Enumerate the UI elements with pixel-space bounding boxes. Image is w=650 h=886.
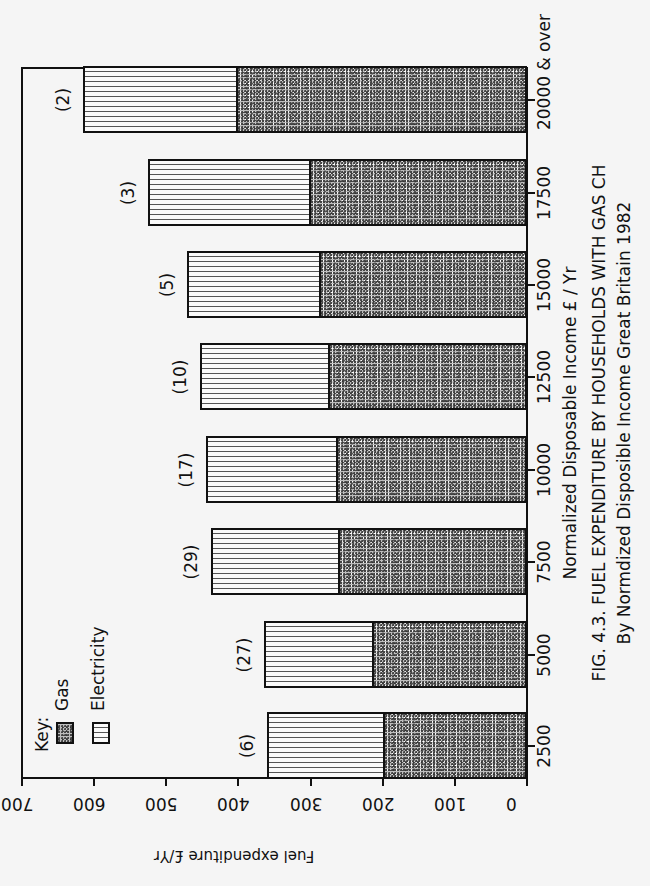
x-axis-title: Normalized Disposable Income £ / Yr xyxy=(560,67,580,779)
bar-segment-gas xyxy=(372,622,527,689)
y-tick-label: 100 xyxy=(434,794,474,814)
bar-segment-electricity xyxy=(200,344,328,411)
bar-segment-electricity xyxy=(211,529,338,596)
sample-count-label: (5) xyxy=(157,255,177,315)
bar-segment-gas xyxy=(236,67,527,134)
sample-count-label: (29) xyxy=(181,532,201,592)
figure-caption-title: FIG. 4.3. FUEL EXPENDITURE BY HOUSEHOLDS… xyxy=(589,67,609,779)
y-tick-label: 400 xyxy=(217,794,257,814)
bar-segment-gas xyxy=(328,344,527,411)
legend-label-gas: Gas xyxy=(52,679,72,711)
bar-segment-gas xyxy=(338,529,527,596)
y-tick-mark xyxy=(165,778,167,786)
legend: Key: Gas Electricity xyxy=(32,586,122,766)
y-tick-label: 600 xyxy=(73,794,113,814)
y-tick-mark xyxy=(21,778,23,786)
sample-count-label: (2) xyxy=(53,70,73,130)
gas-swatch-icon xyxy=(56,722,74,744)
x-tick-label: 20000 & over xyxy=(534,12,554,132)
bar-segment-electricity xyxy=(148,160,309,227)
y-tick-label: 200 xyxy=(362,794,402,814)
chart-canvas: 0100200300400500600700 (6)(27)(29)(17)(1… xyxy=(0,0,650,886)
y-axis-title: Fuel expenditure £/Yr xyxy=(134,847,334,865)
stacked-bar xyxy=(148,160,527,227)
y-tick-mark xyxy=(93,778,95,786)
bar-segment-electricity xyxy=(187,252,318,319)
x-tick-label: 17500 xyxy=(534,133,554,253)
bar-segment-gas xyxy=(309,160,527,227)
stacked-bar xyxy=(200,344,527,411)
legend-label-electricity: Electricity xyxy=(88,627,108,711)
bar-segment-gas xyxy=(319,252,527,319)
bar-segment-electricity xyxy=(83,67,235,134)
stacked-bar xyxy=(267,713,527,780)
stacked-bar xyxy=(211,529,527,596)
electricity-swatch-icon xyxy=(92,722,110,744)
y-tick-label: 300 xyxy=(290,794,330,814)
legend-title: Key: xyxy=(32,717,52,752)
bar-segment-gas xyxy=(383,713,527,780)
bar-segment-electricity xyxy=(267,713,382,780)
sample-count-label: (27) xyxy=(234,625,254,685)
sample-count-label: (17) xyxy=(176,440,196,500)
bar-segment-gas xyxy=(336,437,527,504)
sample-count-label: (3) xyxy=(118,163,138,223)
bar-segment-electricity xyxy=(206,437,336,504)
figure-caption-subtitle: By Normdized Disposible Income Great Bri… xyxy=(614,67,634,779)
stacked-bar xyxy=(264,622,527,689)
y-tick-mark xyxy=(237,778,239,786)
sample-count-label: (6) xyxy=(237,716,257,776)
sample-count-label: (10) xyxy=(170,347,190,407)
stacked-bar xyxy=(83,67,527,134)
y-tick-label: 500 xyxy=(145,794,185,814)
stacked-bar xyxy=(206,437,527,504)
y-tick-label: 700 xyxy=(1,794,41,814)
stacked-bar xyxy=(187,252,527,319)
bar-segment-electricity xyxy=(264,622,372,689)
